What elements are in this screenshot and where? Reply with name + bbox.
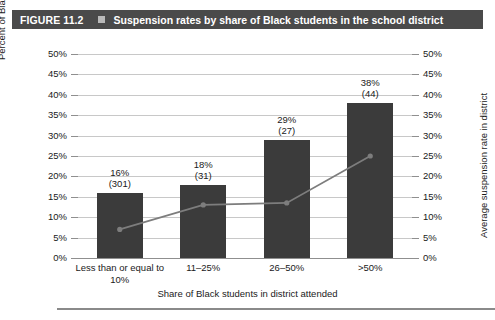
y-tick-label-left: 20% bbox=[0, 171, 67, 181]
bar-percent-label: 29% bbox=[247, 114, 327, 126]
y-tick-mark-left bbox=[71, 54, 78, 55]
y-tick-label-left: 50% bbox=[0, 49, 67, 59]
bar-percent-label: 18% bbox=[163, 159, 243, 171]
y-axis-right-title: Average suspension rate in district bbox=[478, 48, 489, 238]
y-tick-mark-right bbox=[412, 176, 419, 177]
y-tick-mark-left bbox=[71, 258, 78, 259]
x-axis-title: Share of Black students in district atte… bbox=[0, 288, 495, 299]
y-tick-mark-left bbox=[71, 238, 78, 239]
y-tick-label-right: 50% bbox=[423, 49, 442, 59]
y-tick-mark-right bbox=[412, 74, 419, 75]
y-tick-label-right: 45% bbox=[423, 69, 442, 79]
bar-count-label: (301) bbox=[80, 178, 160, 190]
y-tick-mark-left bbox=[71, 176, 78, 177]
y-tick-label-right: 0% bbox=[423, 253, 437, 263]
y-tick-mark-right bbox=[412, 95, 419, 96]
y-tick-label-left: 25% bbox=[0, 151, 67, 161]
y-tick-mark-left bbox=[71, 197, 78, 198]
footnote-divider bbox=[57, 308, 495, 310]
y-tick-label-right: 40% bbox=[423, 90, 442, 100]
y-tick-mark-left bbox=[71, 115, 78, 116]
y-tick-mark-right bbox=[412, 136, 419, 137]
bar-count-label: (44) bbox=[330, 88, 410, 100]
bar-count-label: (31) bbox=[163, 170, 243, 182]
bar bbox=[347, 103, 393, 258]
y-tick-label-left: 0% bbox=[0, 253, 67, 263]
y-tick-mark-right bbox=[412, 54, 419, 55]
y-tick-mark-right bbox=[412, 156, 419, 157]
bar-percent-label: 38% bbox=[330, 77, 410, 89]
y-tick-mark-left bbox=[71, 217, 78, 218]
bar-percent-label: 16% bbox=[80, 167, 160, 179]
y-tick-mark-right bbox=[412, 258, 419, 259]
y-tick-label-right: 25% bbox=[423, 151, 442, 161]
x-category-label: >50% bbox=[318, 262, 422, 274]
gridline bbox=[78, 258, 412, 259]
bar bbox=[264, 140, 310, 258]
bar bbox=[97, 193, 143, 258]
bar-data-label: 29%(27) bbox=[247, 114, 327, 137]
bar-data-label: 18%(31) bbox=[163, 159, 243, 182]
y-tick-mark-left bbox=[71, 95, 78, 96]
y-tick-label-right: 15% bbox=[423, 192, 442, 202]
y-tick-label-left: 5% bbox=[0, 233, 67, 243]
y-tick-label-left: 15% bbox=[0, 192, 67, 202]
y-tick-mark-left bbox=[71, 136, 78, 137]
y-tick-label-right: 5% bbox=[423, 233, 437, 243]
bar bbox=[180, 185, 226, 258]
bar-data-label: 38%(44) bbox=[330, 77, 410, 100]
x-axis-title-text: Share of Black students in district atte… bbox=[157, 288, 337, 299]
y-tick-label-right: 30% bbox=[423, 131, 442, 141]
bar-data-label: 16%(301) bbox=[80, 167, 160, 190]
y-tick-mark-left bbox=[71, 156, 78, 157]
y-tick-label-left: 45% bbox=[0, 69, 67, 79]
y-tick-label-right: 10% bbox=[423, 212, 442, 222]
bar-count-label: (27) bbox=[247, 125, 327, 137]
y-tick-mark-left bbox=[71, 74, 78, 75]
y-tick-label-left: 35% bbox=[0, 110, 67, 120]
y-tick-mark-right bbox=[412, 197, 419, 198]
y-tick-label-right: 35% bbox=[423, 110, 442, 120]
y-tick-mark-right bbox=[412, 238, 419, 239]
y-tick-label-left: 10% bbox=[0, 212, 67, 222]
y-axis-right-title-text: Average suspension rate in district bbox=[478, 93, 489, 238]
y-tick-label-left: 30% bbox=[0, 131, 67, 141]
y-tick-mark-right bbox=[412, 115, 419, 116]
y-tick-label-left: 40% bbox=[0, 90, 67, 100]
y-tick-mark-right bbox=[412, 217, 419, 218]
y-tick-label-right: 20% bbox=[423, 171, 442, 181]
chart-container: Percent of Black students in state (numb… bbox=[0, 0, 495, 320]
